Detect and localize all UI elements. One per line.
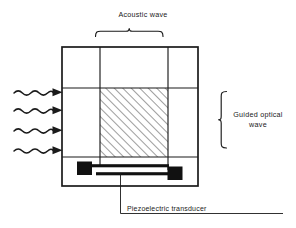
acousto-optic-modulator-figure: Acoustic wave	[0, 0, 296, 228]
piezoelectric-transducer-label: Piezoelectric transducer	[127, 205, 207, 212]
acoustic-wave-brace-icon	[96, 29, 164, 37]
transducer-finger-upper	[89, 164, 169, 167]
figure-container: Acoustic wave	[0, 0, 296, 228]
hatched-interaction-region	[100, 88, 168, 157]
interdigital-transducer	[77, 162, 183, 181]
transducer-pad-left	[77, 162, 92, 176]
guided-optical-wave-brace-icon	[219, 92, 227, 149]
acoustic-wave-label: Acoustic wave	[118, 10, 167, 19]
guided-optical-wave-label-line1: Guided optical	[233, 110, 283, 119]
guided-optical-wave-label-line2: wave	[248, 120, 267, 129]
transducer-finger-lower	[96, 172, 172, 175]
transducer-pad-right	[168, 167, 183, 181]
incident-optical-wave-arrowheads-icon	[53, 88, 63, 154]
incident-optical-waves-icon	[14, 91, 53, 153]
